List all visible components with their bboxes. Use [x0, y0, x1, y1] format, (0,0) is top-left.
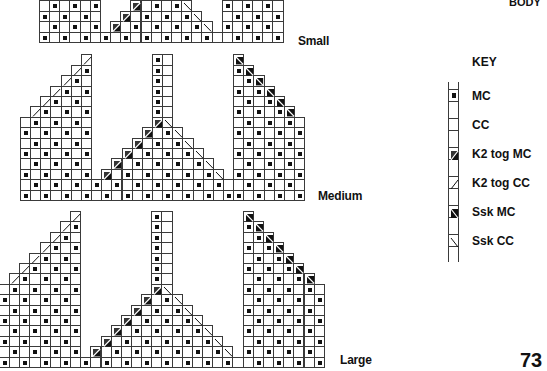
- mc-stitch-icon: [267, 267, 271, 271]
- mc-stitch-icon: [145, 15, 149, 19]
- mc-stitch-icon: [156, 58, 160, 62]
- mc-stitch-icon: [288, 183, 292, 187]
- mc-stitch-icon: [165, 340, 169, 344]
- mc-stitch-icon: [166, 131, 170, 135]
- mc-stitch-icon: [135, 329, 139, 333]
- mc-stitch-icon: [247, 309, 251, 313]
- mc-stitch-icon: [53, 25, 57, 29]
- mc-stitch-icon: [165, 298, 169, 302]
- mc-stitch-icon: [308, 350, 312, 354]
- mc-stitch-icon: [75, 121, 79, 125]
- key-item-cc: CC: [448, 118, 547, 138]
- mc-stitch-icon: [176, 142, 180, 146]
- mc-stitch-icon: [237, 69, 241, 73]
- mc-stitch-icon: [308, 329, 312, 333]
- mc-stitch-icon: [298, 194, 302, 198]
- mc-stitch-icon: [74, 350, 78, 354]
- mc-stitch-icon: [64, 298, 68, 302]
- stitch-cell: [314, 346, 325, 357]
- mc-stitch-icon: [145, 36, 149, 40]
- mc-stitch-icon: [64, 257, 68, 261]
- stitch-cell: [162, 65, 173, 76]
- stitch-cell: [70, 305, 81, 316]
- mc-stitch-icon: [13, 309, 17, 313]
- stitch-cell: [161, 221, 172, 232]
- mc-stitch-icon: [34, 162, 38, 166]
- stitch-cell: [161, 263, 172, 274]
- mc-stitch-icon: [94, 4, 98, 8]
- mc-stitch-icon: [257, 277, 261, 281]
- mc-stitch-icon: [74, 329, 78, 333]
- mc-stitch-icon: [145, 361, 149, 365]
- mc-stitch-icon: [297, 277, 301, 281]
- mc-stitch-icon: [277, 257, 281, 261]
- mc-stitch-icon: [276, 36, 280, 40]
- mc-stitch-icon: [268, 100, 272, 104]
- mc-stitch-icon: [156, 183, 160, 187]
- mc-stitch-icon: [54, 246, 58, 250]
- mc-stitch-icon: [44, 152, 48, 156]
- stitch-cell: [294, 127, 305, 138]
- stitch-cell: [70, 273, 81, 284]
- stitch-cell: [314, 357, 325, 368]
- key-label: K2 tog CC: [472, 176, 530, 190]
- mc-stitch-icon: [267, 309, 271, 313]
- stitch-cell: [294, 158, 305, 169]
- mc-stitch-icon: [278, 131, 282, 135]
- mc-stitch-icon: [33, 329, 37, 333]
- mc-stitch-icon: [277, 298, 281, 302]
- mc-stitch-icon: [205, 36, 209, 40]
- stitch-cell: [272, 21, 283, 32]
- mc-stitch-icon: [308, 309, 312, 313]
- ssk-cc-icon: [192, 12, 203, 23]
- mc-stitch-icon: [23, 298, 27, 302]
- mc-stitch-icon: [236, 15, 240, 19]
- mc-stitch-icon: [156, 79, 160, 83]
- mc-stitch-icon: [257, 152, 261, 156]
- stitch-cell: [161, 242, 172, 253]
- mc-stitch-icon: [54, 350, 58, 354]
- mc-stitch-icon: [176, 183, 180, 187]
- mc-stitch-icon: [257, 194, 261, 198]
- stitch-cell: [81, 127, 92, 138]
- mc-stitch-icon: [54, 183, 58, 187]
- stitch-cell: [161, 211, 172, 222]
- ssk-cc-icon: [213, 337, 224, 348]
- mc-stitch-icon: [186, 319, 190, 323]
- ssk-cc-icon: [183, 306, 194, 317]
- ssk-cc-icon: [163, 118, 174, 129]
- mc-stitch-icon: [226, 4, 230, 8]
- stitch-cell: [162, 54, 173, 65]
- mc-stitch-icon: [44, 361, 48, 365]
- mc-stitch-icon: [125, 340, 129, 344]
- mc-stitch-icon: [256, 36, 260, 40]
- mc-stitch-icon: [75, 142, 79, 146]
- mc-stitch-icon: [24, 194, 28, 198]
- stitch-cell: [70, 263, 81, 274]
- mc-stitch-icon: [75, 100, 79, 104]
- mc-stitch-icon: [54, 288, 58, 292]
- stitch-cell: [81, 158, 92, 169]
- ssk-cc-icon: [182, 1, 193, 12]
- mc-stitch-icon: [318, 361, 322, 365]
- mc-stitch-icon: [247, 267, 251, 271]
- mc-stitch-icon: [257, 298, 261, 302]
- mc-stitch-icon: [288, 142, 292, 146]
- ssk-cc-icon: [203, 326, 214, 337]
- mc-stitch-icon: [43, 15, 47, 19]
- mc-stitch-icon: [146, 152, 150, 156]
- mc-stitch-icon: [65, 131, 69, 135]
- mc-stitch-icon: [155, 236, 159, 240]
- mc-stitch-icon: [124, 36, 128, 40]
- stitch-cell: [294, 117, 305, 128]
- mc-stitch-icon: [206, 361, 210, 365]
- mc-stitch-icon: [74, 225, 78, 229]
- mc-stitch-icon: [85, 152, 89, 156]
- mc-stitch-icon: [165, 15, 169, 19]
- mc-stitch-icon: [287, 309, 291, 313]
- mc-stitch-icon: [277, 340, 281, 344]
- key-item-k2tog-mc: K2 tog MC: [448, 147, 547, 167]
- mc-stitch-icon: [3, 319, 7, 323]
- mc-stitch-icon: [155, 267, 159, 271]
- mc-stitch-icon: [85, 131, 89, 135]
